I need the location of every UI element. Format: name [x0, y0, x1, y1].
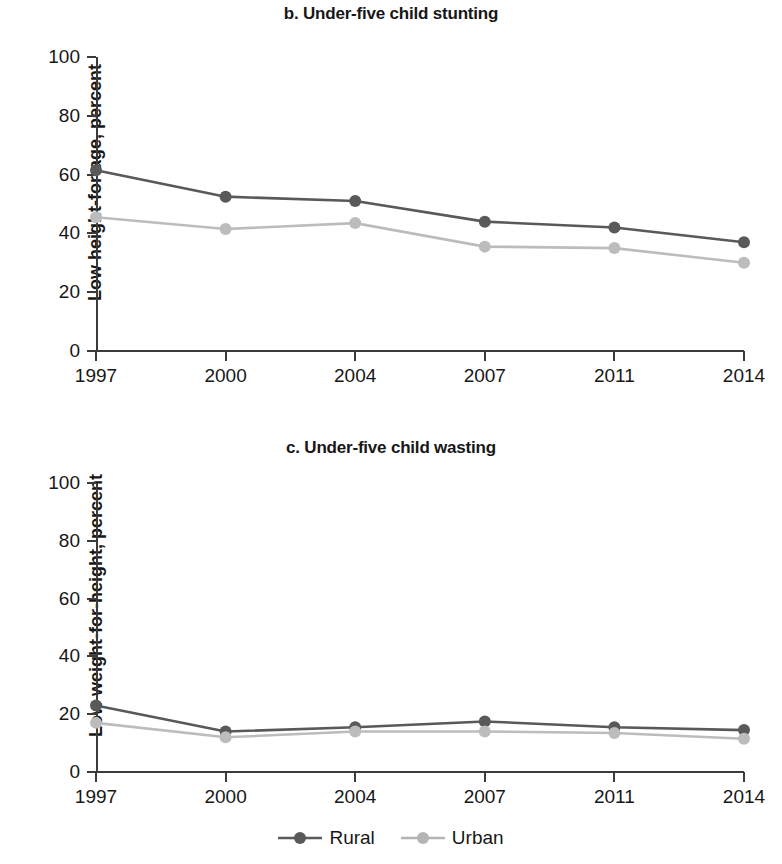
y-tick-label: 20: [34, 281, 80, 303]
x-tick-label: 1997: [75, 365, 117, 387]
data-point-urban: [608, 242, 620, 254]
y-tick-label: 0: [34, 340, 80, 362]
y-tick-mark: [87, 56, 96, 58]
x-tick-label: 2011: [594, 365, 635, 387]
data-point-rural: [349, 195, 361, 207]
series-line-urban: [96, 217, 744, 263]
data-point-urban: [608, 727, 620, 739]
x-tick-mark: [484, 772, 486, 782]
chart-title-stunting: b. Under-five child stunting: [0, 4, 782, 24]
y-tick-label: 100: [34, 472, 80, 494]
series-layer-stunting: [96, 57, 744, 351]
y-tick-label: 20: [34, 703, 80, 725]
x-tick-label: 2004: [334, 786, 376, 808]
y-tick-label: 80: [34, 530, 80, 552]
y-tick-mark: [87, 232, 96, 234]
legend-marker-icon: [401, 830, 445, 846]
y-tick-mark: [87, 482, 96, 484]
data-point-urban: [738, 257, 750, 269]
y-tick-label: 40: [34, 222, 80, 244]
y-tick-label: 40: [34, 645, 80, 667]
x-tick-label: 1997: [75, 786, 117, 808]
figure-panel-group: b. Under-five child stunting Low height-…: [0, 0, 782, 864]
x-tick-label: 2014: [723, 786, 765, 808]
legend-item-rural: Rural: [278, 828, 374, 847]
x-tick-mark: [484, 351, 486, 361]
y-tick-mark: [87, 115, 96, 117]
y-tick-label: 60: [34, 164, 80, 186]
legend-label: Urban: [452, 828, 504, 847]
data-point-urban: [738, 733, 750, 745]
x-tick-mark: [354, 351, 356, 361]
x-tick-label: 2007: [464, 786, 506, 808]
x-tick-mark: [743, 351, 745, 361]
y-tick-label: 0: [34, 761, 80, 783]
plot-area-stunting: Low height-for-age, percent 020406080100…: [96, 57, 744, 351]
y-tick-mark: [87, 655, 96, 657]
x-tick-mark: [354, 772, 356, 782]
data-point-rural: [90, 700, 102, 712]
y-tick-label: 80: [34, 105, 80, 127]
chart-panel-wasting: c. Under-five child wasting Low weight-f…: [0, 418, 782, 818]
y-tick-label: 100: [34, 46, 80, 68]
data-point-urban: [220, 223, 232, 235]
series-line-rural: [96, 706, 744, 732]
data-point-rural: [90, 164, 102, 176]
y-tick-label: 60: [34, 588, 80, 610]
x-tick-mark: [225, 351, 227, 361]
data-point-urban: [349, 217, 361, 229]
x-tick-mark: [613, 351, 615, 361]
x-tick-label: 2000: [204, 365, 246, 387]
data-point-urban: [90, 211, 102, 223]
y-tick-mark: [87, 598, 96, 600]
legend-label: Rural: [329, 828, 374, 847]
data-point-urban: [220, 731, 232, 743]
x-tick-label: 2007: [464, 365, 506, 387]
chart-legend: RuralUrban: [0, 828, 782, 847]
legend-item-urban: Urban: [401, 828, 504, 847]
x-tick-mark: [743, 772, 745, 782]
x-tick-label: 2004: [334, 365, 376, 387]
data-point-urban: [479, 726, 491, 738]
y-tick-mark: [87, 291, 96, 293]
data-point-urban: [90, 717, 102, 729]
data-point-urban: [349, 726, 361, 738]
x-tick-mark: [95, 772, 97, 782]
x-tick-label: 2011: [594, 786, 635, 808]
series-line-rural: [96, 170, 744, 242]
x-tick-mark: [225, 772, 227, 782]
chart-title-wasting: c. Under-five child wasting: [0, 438, 782, 458]
x-tick-mark: [95, 351, 97, 361]
data-point-rural: [479, 216, 491, 228]
y-tick-mark: [87, 713, 96, 715]
chart-panel-stunting: b. Under-five child stunting Low height-…: [0, 0, 782, 418]
data-point-rural: [608, 222, 620, 234]
series-layer-wasting: [96, 483, 744, 772]
x-tick-label: 2000: [204, 786, 246, 808]
plot-area-wasting: Low weight-for-height, percent 020406080…: [96, 483, 744, 772]
x-tick-label: 2014: [723, 365, 765, 387]
data-point-urban: [479, 241, 491, 253]
legend-marker-icon: [278, 830, 322, 846]
data-point-rural: [220, 191, 232, 203]
y-tick-mark: [87, 540, 96, 542]
data-point-rural: [738, 236, 750, 248]
x-tick-mark: [613, 772, 615, 782]
